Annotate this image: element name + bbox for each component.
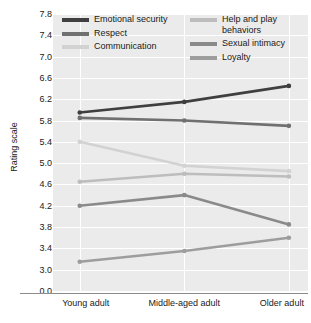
legend-swatch — [62, 32, 89, 36]
legend-label: Communication — [94, 41, 157, 52]
data-point-marker — [287, 124, 292, 129]
data-point-marker — [287, 222, 292, 227]
legend-column-right: Help and play behaviorsSexual intimacyLo… — [190, 14, 308, 65]
data-point-marker — [77, 203, 82, 208]
series-line — [80, 195, 289, 224]
y-tick-label: 0.0 — [39, 286, 52, 296]
y-tick-label: 7.0 — [39, 52, 52, 62]
data-point-marker — [287, 235, 292, 240]
legend-swatch — [190, 42, 217, 46]
data-point-marker — [182, 172, 187, 177]
y-tick-label: 5.4 — [39, 137, 52, 147]
legend-label: Emotional security — [94, 14, 168, 25]
y-axis-title: Rating scale — [9, 102, 19, 192]
legend-label: Sexual intimacy — [222, 38, 285, 49]
y-tick-label: 5.0 — [39, 158, 52, 168]
y-tick-label: 6.2 — [39, 94, 52, 104]
y-tick-label: 5.8 — [39, 116, 52, 126]
data-point-marker — [182, 164, 187, 169]
y-tick-label: 4.6 — [39, 179, 52, 189]
data-point-marker — [182, 193, 187, 198]
y-tick-label: 3.4 — [39, 243, 52, 253]
x-axis-rule — [20, 293, 308, 294]
legend-swatch — [62, 18, 89, 22]
legend-label: Respect — [94, 28, 127, 39]
y-tick-label: 7.8 — [39, 9, 52, 19]
legend-item: Communication — [62, 41, 190, 52]
legend-swatch — [190, 56, 217, 60]
legend-item: Loyalty — [190, 52, 308, 63]
legend-item: Sexual intimacy — [190, 38, 308, 49]
legend-label: Help and play behaviors — [222, 14, 277, 35]
legend-item: Respect — [62, 28, 190, 39]
data-point-marker — [77, 116, 82, 121]
x-tick-label: Older adult — [260, 298, 304, 308]
legend-swatch — [190, 18, 217, 22]
data-point-marker — [182, 249, 187, 254]
legend-swatch — [62, 45, 89, 49]
data-point-marker — [287, 174, 292, 179]
legend-label: Loyalty — [222, 52, 251, 63]
data-point-marker — [182, 118, 187, 123]
data-point-marker — [182, 100, 187, 105]
y-tick-label: 7.4 — [39, 30, 52, 40]
chart-figure: Rating scale 7.87.47.06.66.25.85.45.04.6… — [0, 0, 311, 323]
legend-column-left: Emotional securityRespectCommunication — [62, 14, 190, 55]
x-axis-tick-labels: Young adultMiddle-aged adultOlder adult — [0, 298, 311, 318]
data-point-marker — [77, 259, 82, 264]
legend-item: Emotional security — [62, 14, 190, 25]
data-point-marker — [287, 169, 292, 174]
data-point-marker — [77, 180, 82, 185]
x-tick-label: Middle-aged adult — [149, 298, 221, 308]
legend-item: Help and play behaviors — [190, 14, 308, 35]
data-point-marker — [287, 84, 292, 89]
y-axis-tick-labels: 7.87.47.06.66.25.85.45.04.64.23.83.43.00… — [20, 0, 52, 323]
data-point-marker — [77, 140, 82, 145]
data-point-marker — [77, 110, 82, 115]
series-line — [80, 86, 289, 113]
chart-legend: Emotional securityRespectCommunication H… — [53, 14, 308, 84]
y-tick-label: 4.2 — [39, 201, 52, 211]
y-tick-label: 6.6 — [39, 73, 52, 83]
y-tick-label: 3.8 — [39, 222, 52, 232]
x-tick-label: Young adult — [62, 298, 109, 308]
y-tick-label: 3.0 — [39, 265, 52, 275]
